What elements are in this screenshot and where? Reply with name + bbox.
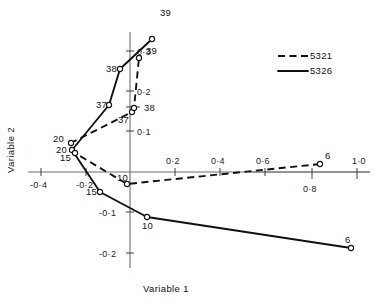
point-label-5326-15: 15 bbox=[86, 186, 97, 197]
x-tick-label-08: 0·8 bbox=[303, 184, 317, 194]
plot-canvas: -0·4 -0·2 0·2 0·4 0·6 0·8 1·0 -0·2 -0·1 … bbox=[0, 0, 388, 302]
point-label-5321-37: 37 bbox=[118, 114, 129, 125]
point-label-5321-39: 39 bbox=[146, 45, 157, 56]
point-label-5326-6: 6 bbox=[345, 234, 351, 245]
x-tick-label-06: 0·6 bbox=[256, 156, 270, 166]
y-axis-ticks bbox=[126, 51, 140, 253]
scatter-line-plot: -0·4 -0·2 0·2 0·4 0·6 0·8 1·0 -0·2 -0·1 … bbox=[0, 0, 388, 302]
x-tick-label-neg04: -0·4 bbox=[30, 180, 47, 190]
y-tick-label-neg02: -0·2 bbox=[99, 249, 116, 259]
x-tick-label-02: 0·2 bbox=[166, 156, 180, 166]
legend-label-5326: 5326 bbox=[310, 65, 332, 76]
point-label-5321-10: 10 bbox=[117, 172, 128, 183]
y-tick-label-02: 0·2 bbox=[137, 87, 151, 97]
point-label-5321-20: 20 bbox=[53, 133, 64, 144]
x-axis-title: Variable 1 bbox=[143, 283, 189, 294]
point-label-5326-10: 10 bbox=[142, 220, 153, 231]
x-tick-label-04: 0·4 bbox=[211, 156, 225, 166]
x-tick-label-10: 1·0 bbox=[352, 156, 366, 166]
y-axis-title: Variable 2 bbox=[5, 127, 16, 173]
point-label-5326-37: 37 bbox=[96, 99, 107, 110]
y-tick-label-01: 0·1 bbox=[137, 127, 151, 137]
point-label-5321-38: 38 bbox=[144, 102, 155, 113]
legend-label-5321: 5321 bbox=[310, 50, 332, 61]
series-line-5321 bbox=[71, 58, 320, 184]
point-label-5321-15: 15 bbox=[60, 152, 71, 163]
point-label-5321-6: 6 bbox=[325, 150, 331, 161]
y-tick-label-neg01: -0·1 bbox=[99, 208, 116, 218]
point-label-5326-39: 39 bbox=[160, 7, 171, 18]
legend: 5321 5326 bbox=[278, 50, 332, 76]
point-label-5326-38: 38 bbox=[106, 63, 117, 74]
